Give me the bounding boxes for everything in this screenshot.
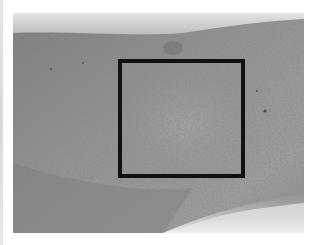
roi-annotation-box — [118, 59, 245, 178]
left-edge-strip — [0, 0, 3, 245]
